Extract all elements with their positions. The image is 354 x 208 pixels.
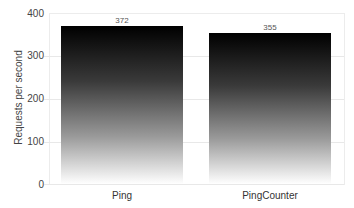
gridline-0 bbox=[44, 184, 344, 185]
bar-ping bbox=[61, 26, 183, 184]
y-tick-400: 400 bbox=[14, 9, 44, 19]
y-tick-300: 300 bbox=[14, 51, 44, 61]
y-tick-0: 0 bbox=[14, 180, 44, 190]
data-label-pingcounter: 355 bbox=[240, 23, 300, 32]
x-tick-pingcounter: PingCounter bbox=[209, 190, 331, 201]
plot-area: 372 355 bbox=[49, 13, 345, 185]
data-label-ping: 372 bbox=[92, 16, 152, 25]
bar-pingcounter bbox=[209, 33, 331, 184]
y-tick-200: 200 bbox=[14, 94, 44, 104]
x-tick-ping: Ping bbox=[61, 190, 183, 201]
y-tick-100: 100 bbox=[14, 137, 44, 147]
bar-chart: Requests per second 400 300 200 100 0 37… bbox=[0, 0, 354, 208]
